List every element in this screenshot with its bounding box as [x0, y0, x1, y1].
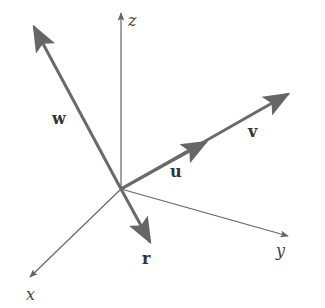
y-axis-label: y	[275, 241, 286, 260]
vector-w-label: w	[51, 109, 67, 128]
vector-u	[121, 142, 206, 189]
y-axis	[121, 189, 288, 236]
z-axis-label: z	[127, 11, 137, 30]
vector-v-label: v	[247, 122, 258, 141]
vector-w	[34, 27, 121, 189]
vector-r-label: r	[142, 249, 151, 268]
vector-diagram: z y x w u v r	[0, 0, 325, 308]
x-axis	[30, 189, 121, 277]
x-axis-label: x	[26, 285, 35, 304]
vector-r	[121, 189, 150, 242]
vector-u-label: u	[170, 162, 182, 181]
